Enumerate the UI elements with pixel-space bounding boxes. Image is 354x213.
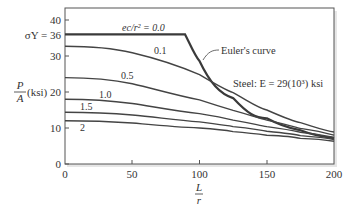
y-tick-10: 10 (50, 122, 62, 134)
y-tick-0: 0 (56, 158, 62, 170)
label-ec-1.5: 1.5 (80, 101, 93, 112)
x-tick-100: 100 (191, 168, 208, 180)
euler-curve-label: Euler's curve (221, 45, 276, 56)
label-ec-0.1: 0.1 (154, 45, 167, 56)
steel-modulus-label: Steel: E = 29(10³) ksi (233, 78, 323, 90)
y-label-A: A (16, 92, 24, 104)
secant-formula-chart: 0 10 20 30 40 σY = 36 0 50 100 150 200 P… (0, 0, 354, 213)
y-tick-40: 40 (50, 14, 62, 26)
label-ec-0.0: ec/r² = 0.0 (122, 22, 165, 33)
label-ec-0.5: 0.5 (121, 70, 134, 81)
x-label-L: L (195, 181, 202, 193)
x-label-r: r (197, 194, 202, 206)
x-tick-50: 50 (127, 168, 139, 180)
y-tick-20: 20 (50, 86, 62, 98)
y-label-unit: (ksi) (27, 86, 48, 99)
x-tick-0: 0 (62, 168, 68, 180)
x-tick-200: 200 (326, 168, 343, 180)
x-tick-150: 150 (259, 168, 276, 180)
label-ec-1.0: 1.0 (99, 89, 112, 100)
y-tick-30: 30 (50, 50, 62, 62)
label-ec-2: 2 (80, 122, 85, 133)
y-tick-sigma-y: σY = 36 (25, 29, 62, 41)
y-label-P: P (16, 79, 24, 91)
